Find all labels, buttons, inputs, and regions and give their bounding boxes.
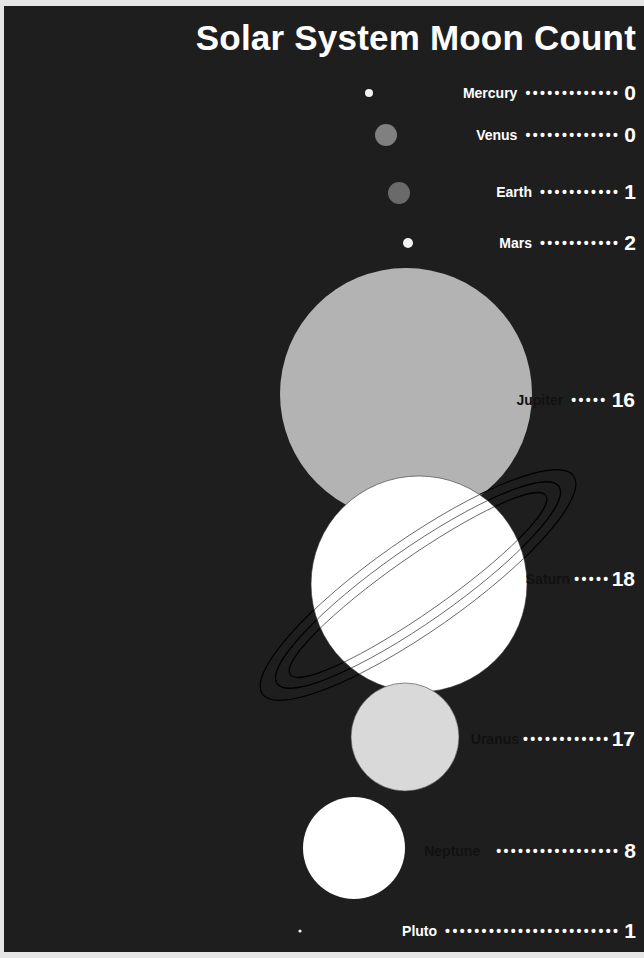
planet-row-uranus: Uranus •••••••••••• 17 xyxy=(471,727,635,751)
leader-dots: ••••••••••• xyxy=(540,235,620,251)
leader-dots: ••••••••••••••••• xyxy=(496,843,620,859)
planet-row-neptune: Neptune ••••••••••••••••• 8 xyxy=(424,839,636,863)
earth-circle xyxy=(388,182,410,204)
mars-circle xyxy=(403,238,413,248)
moon-count: 1 xyxy=(624,919,636,943)
venus-circle xyxy=(375,124,397,146)
moon-count: 2 xyxy=(624,231,636,255)
uranus-circle xyxy=(351,683,459,791)
leader-dots: •••••••••••••••••••••••• xyxy=(445,923,620,939)
moon-count: 0 xyxy=(624,123,636,147)
planet-label: Pluto xyxy=(402,923,437,939)
pluto-circle xyxy=(298,929,301,932)
planet-row-jupiter: Jupiter ••••• 16 xyxy=(516,388,635,412)
planet-row-mars: Mars ••••••••••• 2 xyxy=(499,231,636,255)
leader-dots: ••••• xyxy=(571,392,608,408)
planet-row-pluto: Pluto •••••••••••••••••••••••• 1 xyxy=(402,919,636,943)
planet-label: Saturn xyxy=(526,571,570,587)
planet-label: Neptune xyxy=(424,843,480,859)
planet-row-mercury: Mercury ••••••••••••• 0 xyxy=(463,81,636,105)
planet-label: Venus xyxy=(476,127,517,143)
planet-row-earth: Earth ••••••••••• 1 xyxy=(496,180,636,204)
mercury-circle xyxy=(365,89,373,97)
planet-label: Earth xyxy=(496,184,532,200)
moon-count: 18 xyxy=(612,567,635,591)
planet-row-venus: Venus ••••••••••••• 0 xyxy=(476,123,636,147)
leader-dots: •••••••••••• xyxy=(523,731,611,747)
leader-dots: ••••••••••• xyxy=(540,184,620,200)
moon-count: 8 xyxy=(624,839,636,863)
moon-count: 17 xyxy=(612,727,635,751)
neptune-circle xyxy=(303,797,405,899)
planet-label: Jupiter xyxy=(516,392,563,408)
leader-dots: ••••••••••••• xyxy=(525,127,620,143)
moon-count: 16 xyxy=(612,388,635,412)
chart-title: Solar System Moon Count xyxy=(196,18,636,58)
planet-label: Mars xyxy=(499,235,532,251)
moon-count: 0 xyxy=(624,81,636,105)
leader-dots: ••••• xyxy=(574,571,611,587)
moon-count: 1 xyxy=(624,180,636,204)
planet-label: Mercury xyxy=(463,85,517,101)
planet-row-saturn: Saturn ••••• 18 xyxy=(526,567,635,591)
leader-dots: ••••••••••••• xyxy=(525,85,620,101)
planet-label: Uranus xyxy=(471,731,519,747)
